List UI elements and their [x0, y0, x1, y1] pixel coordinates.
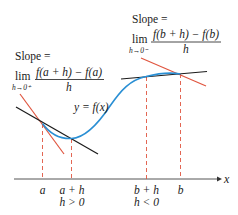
right-denominator: h [183, 43, 189, 55]
function-curve [43, 73, 181, 138]
right-slope-label: Slope = [132, 13, 168, 26]
x-axis-arrow-icon [217, 177, 222, 182]
tick-sub-b-plus-h: h < 0 [134, 196, 159, 208]
tick-label-b: b [178, 184, 184, 196]
left-slope-label: Slope = [15, 50, 51, 63]
left-lim: lim [15, 70, 30, 82]
right-lim-subscript: h→0⁻ [129, 46, 149, 55]
guide-lines [43, 74, 181, 179]
curve-label: y = f(x) [73, 101, 109, 114]
tick-label-b-plus-h: b + h [134, 184, 159, 196]
left-slope-annotation: Slope = lim h→0⁺ f(a + h) − f(a) h [12, 50, 104, 93]
left-numerator: f(a + h) − f(a) [36, 66, 102, 79]
tick-sub-a-plus-h: h > 0 [59, 196, 84, 208]
left-lim-subscript: h→0⁺ [12, 83, 32, 92]
right-slope-annotation: Slope = lim h→0⁻ f(b + h) − f(b) h [129, 13, 221, 55]
x-axis-label: x [223, 172, 230, 186]
diagram-canvas: x y = f(x) Slope = lim h→0⁺ f(a + h) − f… [0, 0, 238, 215]
tick-label-a: a [40, 184, 46, 196]
right-numerator: f(b + h) − f(b) [153, 28, 219, 41]
left-denominator: h [66, 81, 72, 93]
right-lim: lim [132, 33, 147, 45]
tick-labels: a a + h h > 0 b + h h < 0 b [40, 184, 184, 208]
secant-line-right [16, 107, 98, 154]
tick-label-a-plus-h: a + h [59, 184, 84, 196]
